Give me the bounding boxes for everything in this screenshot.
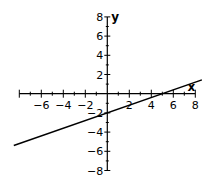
y-tick-label: −2 [87, 107, 103, 120]
y-tick-label: 6 [96, 30, 103, 43]
x-axis-label: x [187, 80, 195, 94]
chart-plot: −6−4−22468−8−6−4−22468 x y [0, 0, 211, 181]
x-tick-label: 6 [170, 99, 177, 112]
y-tick-label: 2 [96, 69, 103, 82]
axes [19, 17, 195, 171]
y-tick-label: −6 [87, 145, 103, 158]
x-tick-label: −4 [55, 99, 71, 112]
y-tick-label: 8 [96, 11, 103, 24]
x-tick-label: 4 [148, 99, 155, 112]
y-axis-label: y [111, 10, 119, 24]
x-tick-label: 8 [192, 99, 199, 112]
y-tick-label: −8 [87, 165, 103, 178]
x-tick-label: −6 [33, 99, 49, 112]
y-tick-label: 4 [96, 49, 103, 62]
y-tick-label: −4 [87, 126, 103, 139]
